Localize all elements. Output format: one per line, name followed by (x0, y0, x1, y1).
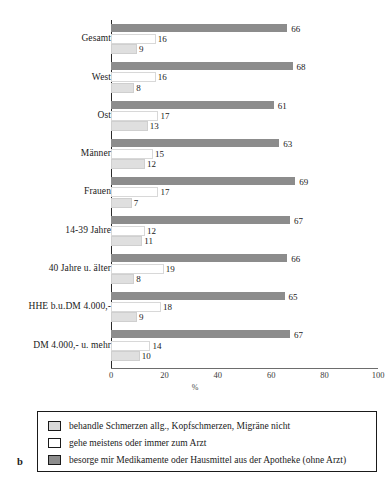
bar (111, 121, 148, 131)
bar-group: 611713 (111, 101, 378, 129)
legend-swatch-arzt (48, 438, 61, 448)
plot-area: 6616968168611713631512691776712116619865… (0, 0, 390, 382)
category-label: Gesamt (81, 33, 111, 43)
bar-value-label: 68 (297, 63, 306, 72)
legend-swatch-apotheke (48, 455, 61, 465)
bar-value-label: 9 (139, 313, 144, 322)
bar (111, 226, 145, 236)
x-axis-line (111, 368, 378, 369)
bar-value-label: 19 (166, 265, 175, 274)
bar-group: 631512 (111, 139, 378, 167)
bar (111, 292, 285, 300)
bar-group: 66198 (111, 254, 378, 282)
bar (111, 139, 279, 147)
x-tick-label: 80 (320, 371, 329, 380)
bar-group: 671211 (111, 216, 378, 244)
bar-value-label: 12 (147, 160, 156, 169)
bar (111, 101, 274, 109)
bar-value-label: 12 (147, 227, 156, 236)
bar (111, 264, 164, 274)
bar (111, 72, 156, 82)
bar-value-label: 63 (283, 140, 292, 149)
bar-value-label: 65 (289, 293, 298, 302)
x-tick-label: 40 (214, 371, 223, 380)
bar-group: 66169 (111, 24, 378, 52)
bar-value-label: 11 (144, 237, 153, 246)
category-label: Ost (98, 110, 112, 120)
legend-label-nicht-behandelt: behandle Schmerzen allg., Kopfschmerzen,… (69, 421, 290, 432)
bar-value-label: 14 (152, 342, 161, 351)
bar-value-label: 8 (136, 275, 141, 284)
legend-label-arzt: gehe meistens oder immer zum Arzt (69, 438, 206, 449)
bar (111, 187, 158, 197)
x-tick-label: 60 (267, 371, 276, 380)
bar (111, 254, 287, 262)
bar-value-label: 15 (155, 150, 164, 159)
category-label: 40 Jahre u. älter (49, 263, 111, 273)
category-label: West (92, 72, 111, 82)
bar-value-label: 7 (134, 199, 139, 208)
bar (111, 351, 140, 361)
bar-value-label: 17 (160, 188, 169, 197)
bar-group: 671410 (111, 330, 378, 358)
category-label: 14-39 Jahre (65, 225, 111, 235)
x-axis-title: % (0, 383, 390, 392)
x-tick-label: 100 (372, 371, 385, 380)
legend-entry: behandle Schmerzen allg., Kopfschmerzen,… (48, 419, 290, 433)
bar-value-label: 66 (291, 25, 300, 34)
bar-value-label: 61 (278, 102, 287, 111)
bar (111, 149, 153, 159)
bar (111, 177, 295, 185)
bar-group: 69177 (111, 177, 378, 205)
legend-entry: besorge mir Medikamente oder Hausmittel … (48, 453, 346, 467)
bar-group: 68168 (111, 62, 378, 90)
bar (111, 34, 156, 44)
bar (111, 312, 137, 322)
bar-value-label: 13 (150, 122, 159, 131)
bar (111, 330, 290, 338)
category-label: Männer (81, 148, 111, 158)
bar-value-label: 69 (299, 178, 308, 187)
legend-swatch-nicht-behandelt (48, 421, 61, 431)
bar-group: 65189 (111, 292, 378, 320)
bar (111, 44, 137, 54)
bar-value-label: 9 (139, 45, 144, 54)
bar-value-label: 8 (136, 84, 141, 93)
bar (111, 236, 142, 246)
bar (111, 274, 134, 284)
bar-value-label: 66 (291, 255, 300, 264)
bar (111, 198, 132, 208)
bar-value-label: 67 (294, 217, 303, 226)
bar-value-label: 10 (142, 352, 151, 361)
bar (111, 302, 161, 312)
bar-value-label: 18 (163, 303, 172, 312)
bar (111, 159, 145, 169)
legend-entry: gehe meistens oder immer zum Arzt (48, 436, 206, 450)
bar (111, 216, 290, 224)
category-label: HHE b.u.DM 4.000,- (28, 301, 111, 311)
legend-label-apotheke: besorge mir Medikamente oder Hausmittel … (69, 455, 346, 466)
bar-value-label: 16 (158, 73, 167, 82)
bar (111, 341, 150, 351)
bar (111, 83, 134, 93)
bar-value-label: 16 (158, 35, 167, 44)
figure-panel-b: 6616968168611713631512691776712116619865… (0, 0, 390, 487)
bar-value-label: 67 (294, 331, 303, 340)
bar (111, 111, 158, 121)
bar-value-label: 17 (160, 112, 169, 121)
category-label: DM 4.000,- u. mehr (33, 340, 111, 350)
bar (111, 24, 287, 32)
x-tick-label: 20 (160, 371, 169, 380)
x-tick-label: 0 (109, 371, 113, 380)
category-label: Frauen (84, 186, 111, 196)
panel-letter: b (17, 456, 23, 467)
legend-box: behandle Schmerzen allg., Kopfschmerzen,… (37, 411, 377, 472)
bar (111, 62, 293, 70)
